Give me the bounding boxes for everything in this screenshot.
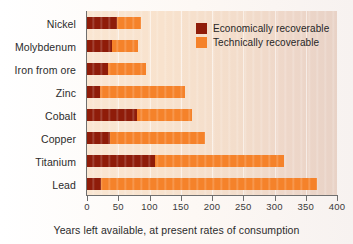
bar-row [87, 155, 337, 167]
legend-label: Economically recoverable [213, 23, 329, 34]
category-label: Lead [52, 179, 76, 191]
legend-item-technically-recoverable: Technically recoverable [196, 37, 329, 48]
legend-item-economically-recoverable: Economically recoverable [196, 23, 329, 34]
x-axis-tick-label: 400 [317, 201, 353, 212]
category-label: Nickel [47, 18, 76, 30]
bar-segment-technically-recoverable [87, 86, 185, 98]
category-label: Zinc [56, 87, 76, 99]
bar-segment-economically-recoverable [87, 86, 100, 98]
bar-segment-economically-recoverable [87, 109, 137, 121]
bar-row [87, 178, 337, 190]
y-axis-line [86, 11, 87, 195]
legend-swatch-icon [196, 23, 207, 34]
legend-swatch-icon [196, 37, 207, 48]
legend: Economically recoverable Technically rec… [196, 23, 329, 51]
bar-segment-economically-recoverable [87, 178, 101, 190]
category-label: Molybdenum [15, 41, 76, 53]
category-label: Cobalt [45, 110, 76, 122]
bar-segment-technically-recoverable [87, 178, 317, 190]
category-label: Copper [41, 133, 76, 145]
bar-segment-economically-recoverable [87, 17, 117, 29]
bar-row [87, 86, 337, 98]
bar-segment-economically-recoverable [87, 155, 155, 167]
bar-segment-economically-recoverable [87, 63, 108, 75]
bar-row [87, 109, 337, 121]
bar-segment-economically-recoverable [87, 132, 110, 144]
bar-chart: 050100150200250300350400 NickelMolybdenu… [0, 0, 353, 244]
x-axis-title: Years left available, at present rates o… [0, 224, 353, 236]
bar-segment-economically-recoverable [87, 40, 112, 52]
legend-label: Technically recoverable [213, 37, 319, 48]
category-label: Iron from ore [15, 64, 76, 76]
bar-row [87, 132, 337, 144]
category-label: Titanium [35, 156, 76, 168]
bar-row [87, 63, 337, 75]
